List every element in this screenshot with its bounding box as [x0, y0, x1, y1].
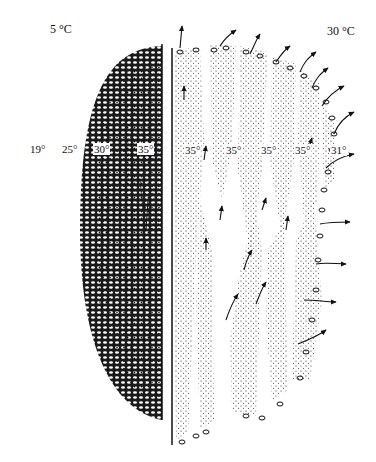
left-zone-label-4: 35° — [137, 143, 154, 155]
right-zone-label-1: 35° — [184, 144, 201, 156]
right-colony-30c — [172, 26, 354, 445]
diagram-drawing — [0, 0, 376, 462]
left-colony-5c — [80, 44, 162, 420]
left-temperature-label: 5 °C — [50, 22, 72, 37]
right-zone-label-2: 35° — [225, 144, 242, 156]
right-zone-label-4: 35° — [294, 144, 311, 156]
colony-temperature-diagram: 5 °C 30 °C 19° 25° 30° 35° 35° 35° 35° 3… — [0, 0, 376, 462]
stream-5 — [230, 210, 262, 416]
left-zone-label-1: 19° — [29, 143, 46, 155]
stream-7 — [266, 220, 288, 400]
stream-9 — [292, 200, 322, 380]
right-zone-label-3: 35° — [260, 144, 277, 156]
right-temperature-label: 30 °C — [327, 24, 355, 39]
left-zone-label-2: 25° — [61, 143, 78, 155]
stream-3 — [196, 200, 214, 430]
stream-2 — [210, 44, 236, 200]
left-zone-label-3: 30° — [93, 143, 110, 155]
right-zone-label-5: 31° — [330, 144, 347, 156]
